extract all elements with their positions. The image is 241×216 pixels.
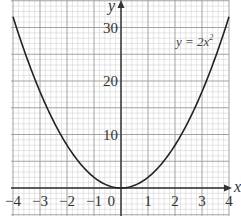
y-tick-label: 30 <box>103 20 118 36</box>
x-tick-label: −1 <box>86 193 102 209</box>
curve-label: y = 2x2 <box>174 33 213 49</box>
x-axis-arrow-icon <box>224 185 232 192</box>
y-tick-label: 10 <box>103 127 118 143</box>
x-tick-label: −3 <box>32 193 48 209</box>
x-tick-label: 4 <box>225 193 233 209</box>
x-tick-label: −2 <box>59 193 75 209</box>
x-tick-label: 2 <box>171 193 179 209</box>
x-tick-labels: −4−3−2−101234 <box>5 193 233 209</box>
parabola-chart: x y −4−3−2−101234 102030 y = 2x2 <box>0 0 241 216</box>
y-tick-label: 20 <box>103 73 118 89</box>
y-axis-label: y <box>106 0 116 15</box>
x-tick-label: −4 <box>5 193 21 209</box>
curve-label-exponent: 2 <box>209 33 213 42</box>
x-axis-label: x <box>233 178 241 195</box>
x-tick-label: 0 <box>108 193 116 209</box>
x-tick-label: 3 <box>198 193 206 209</box>
curve-label-base: y = 2x <box>174 34 210 49</box>
x-tick-label: 1 <box>144 193 152 209</box>
